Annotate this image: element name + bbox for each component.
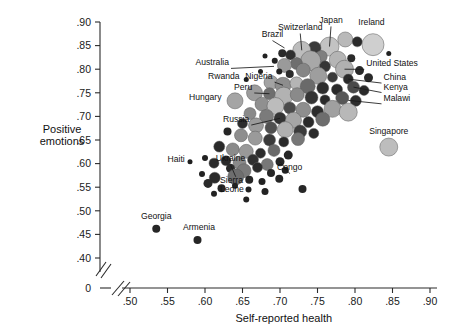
point-label: Switzerland bbox=[278, 22, 323, 32]
data-point bbox=[248, 131, 262, 145]
data-point bbox=[279, 137, 289, 147]
data-point bbox=[272, 58, 278, 64]
data-point bbox=[194, 236, 202, 244]
point-label: Russia bbox=[223, 114, 249, 124]
data-point bbox=[214, 141, 225, 152]
data-point bbox=[338, 32, 353, 47]
y-axis-title: Positiveemotions bbox=[40, 123, 85, 147]
data-point bbox=[267, 169, 275, 177]
point-label: Japan bbox=[319, 15, 343, 25]
point-label: Ireland bbox=[358, 17, 384, 27]
y-tick-label: .50 bbox=[76, 205, 91, 217]
x-tick-label: .90 bbox=[423, 295, 438, 307]
point-label: Congo bbox=[277, 162, 303, 172]
y-tick-label: .90 bbox=[76, 16, 91, 28]
scatter-chart: .40.45.50.55.60.65.70.75.80.85.900.50.55… bbox=[0, 0, 462, 331]
data-point bbox=[259, 178, 266, 185]
y-tick-label: .60 bbox=[76, 157, 91, 169]
data-point bbox=[352, 37, 362, 47]
data-point bbox=[255, 97, 269, 111]
data-point bbox=[268, 144, 280, 156]
data-point bbox=[261, 159, 273, 171]
data-point bbox=[328, 72, 338, 82]
x-axis-title: Self-reported health bbox=[235, 312, 332, 324]
data-point bbox=[299, 185, 307, 193]
x-tick-label: .75 bbox=[310, 295, 325, 307]
x-tick-label: .85 bbox=[385, 295, 400, 307]
x-tick-label: .65 bbox=[235, 295, 250, 307]
data-point bbox=[276, 69, 282, 75]
x-tick-label: .55 bbox=[160, 295, 175, 307]
point-label: Georgia bbox=[141, 211, 172, 221]
data-point bbox=[211, 191, 217, 197]
y-tick-label: .55 bbox=[76, 181, 91, 193]
data-point bbox=[204, 179, 213, 188]
data-point bbox=[263, 53, 268, 58]
data-point bbox=[290, 88, 304, 102]
x-tick-label: .50 bbox=[123, 295, 138, 307]
point-label: Malawi bbox=[384, 93, 411, 103]
point-label: Peru bbox=[234, 82, 252, 92]
data-point bbox=[199, 171, 205, 177]
data-point bbox=[275, 175, 283, 183]
data-point bbox=[246, 187, 252, 193]
point-label: Hungary bbox=[189, 92, 222, 102]
x-axis-break-mark-2 bbox=[118, 282, 130, 296]
data-point bbox=[202, 155, 208, 161]
y-tick-label: .75 bbox=[76, 87, 91, 99]
y-tick-label: .85 bbox=[76, 39, 91, 51]
data-point bbox=[362, 34, 384, 56]
data-point bbox=[235, 129, 248, 142]
data-point bbox=[188, 159, 193, 164]
data-point bbox=[284, 151, 293, 160]
point-label: Nigeria bbox=[245, 71, 272, 81]
point-label: Rwanda bbox=[208, 71, 240, 81]
data-point bbox=[355, 66, 364, 75]
data-point bbox=[316, 112, 330, 126]
data-point bbox=[305, 91, 318, 104]
data-point bbox=[278, 49, 286, 57]
data-point bbox=[262, 188, 269, 195]
data-points-layer bbox=[152, 32, 398, 244]
y-tick-label: .80 bbox=[76, 63, 91, 75]
data-point bbox=[243, 196, 249, 202]
data-point bbox=[265, 122, 277, 134]
point-label: Haiti bbox=[168, 154, 185, 164]
y-tick-label: .45 bbox=[76, 228, 91, 240]
data-point bbox=[253, 162, 263, 172]
point-label: Kenya bbox=[384, 82, 409, 92]
data-point bbox=[309, 128, 319, 138]
data-point bbox=[224, 128, 232, 136]
data-point bbox=[339, 103, 357, 121]
point-label: United States bbox=[366, 58, 418, 68]
x-tick-label: .60 bbox=[198, 295, 213, 307]
data-point bbox=[359, 85, 369, 95]
point-label: Singapore bbox=[369, 126, 408, 136]
label-leader-line bbox=[231, 66, 274, 68]
data-point bbox=[152, 225, 160, 233]
data-point bbox=[249, 118, 264, 133]
data-point bbox=[292, 133, 305, 146]
y-tick-label: .40 bbox=[76, 252, 91, 264]
data-point bbox=[296, 63, 310, 77]
data-point bbox=[303, 117, 314, 128]
y-tick-label: .70 bbox=[76, 110, 91, 122]
data-point bbox=[317, 82, 329, 94]
point-label: SierraLeone bbox=[220, 175, 244, 194]
point-label: Armenia bbox=[183, 222, 215, 232]
point-label: Ukraine bbox=[216, 153, 246, 163]
data-point bbox=[245, 176, 253, 184]
data-point bbox=[386, 51, 391, 56]
origin-label: 0 bbox=[85, 282, 91, 294]
data-point bbox=[227, 93, 243, 109]
data-point bbox=[277, 122, 293, 138]
data-point bbox=[380, 138, 398, 156]
point-label: Australia bbox=[196, 57, 230, 67]
x-tick-label: .70 bbox=[273, 295, 288, 307]
chart-svg: .40.45.50.55.60.65.70.75.80.85.900.50.55… bbox=[0, 0, 462, 331]
x-tick-label: .80 bbox=[348, 295, 363, 307]
label-leader-line bbox=[273, 41, 285, 48]
data-point bbox=[286, 70, 294, 78]
point-label: Brazil bbox=[262, 29, 284, 39]
